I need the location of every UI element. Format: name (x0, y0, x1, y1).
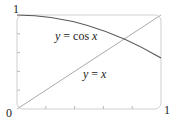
x-axis-max-label: 1 (164, 104, 170, 116)
plot-area (0, 0, 175, 126)
line-label: y = x (83, 68, 106, 80)
y-axis-max-label: 1 (13, 3, 19, 15)
origin-label: 0 (6, 107, 12, 119)
cos-curve-label: y = cos x (55, 30, 97, 42)
